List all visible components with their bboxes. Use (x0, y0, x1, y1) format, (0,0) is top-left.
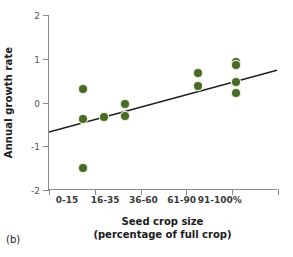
data-point (79, 115, 87, 123)
y-axis-title-text: Annual growth rate (4, 47, 15, 158)
x-tick-label: 16-35 (91, 196, 120, 205)
y-tick-label: 2 (34, 12, 40, 21)
data-point (232, 78, 240, 86)
data-point (194, 69, 202, 77)
x-axis-title: Seed crop size (percentage of full crop) (48, 215, 277, 241)
x-tick-label: 0-15 (56, 196, 79, 205)
x-tick-label: 36-60 (129, 196, 158, 205)
data-point (194, 82, 202, 90)
x-tick-label: 91-100% (198, 196, 242, 205)
x-tick-label: 61-90 (167, 196, 196, 205)
data-point (79, 164, 87, 172)
x-axis-title-line2: (percentage of full crop) (48, 228, 277, 241)
y-axis-title: Annual growth rate (2, 15, 16, 190)
plot-area: 210-1-2 (48, 15, 277, 190)
data-point (121, 112, 129, 120)
x-tick (49, 189, 50, 195)
data-point (100, 113, 108, 121)
x-axis-title-line1: Seed crop size (48, 215, 277, 228)
data-point (232, 61, 240, 69)
y-tick-label: -1 (31, 143, 40, 152)
y-tick-label: 1 (34, 55, 40, 64)
y-tick: 0 (43, 103, 49, 104)
figure-panel-b: Annual growth rate 210-1-2 0-1516-3536-6… (0, 0, 293, 257)
data-point (79, 85, 87, 93)
y-tick: -1 (43, 146, 49, 147)
y-tick: 2 (43, 15, 49, 16)
y-tick-label: 0 (34, 99, 40, 108)
y-tick-label: -2 (31, 187, 40, 196)
data-point (121, 100, 129, 108)
data-point (232, 89, 240, 97)
x-tick (278, 189, 279, 195)
panel-label: (b) (6, 234, 20, 245)
y-tick: 1 (43, 59, 49, 60)
